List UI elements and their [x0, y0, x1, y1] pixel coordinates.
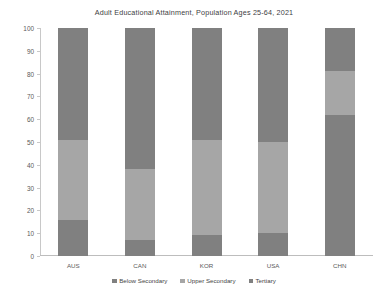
chart-legend: Below SecondaryUpper SecondaryTertiary: [0, 278, 388, 284]
y-axis-tick-label: 60: [8, 116, 34, 123]
y-axis-tick-label: 30: [8, 184, 34, 191]
legend-swatch-icon: [112, 279, 117, 284]
x-axis-tick-label: AUS: [40, 262, 107, 269]
y-axis-tick-label: 90: [8, 47, 34, 54]
y-axis-tick-label: 0: [8, 253, 34, 260]
y-axis-tick-label: 80: [8, 70, 34, 77]
legend-item[interactable]: Upper Secondary: [180, 278, 235, 284]
legend-item[interactable]: Below Secondary: [112, 278, 167, 284]
x-axis-tick-label: CHN: [306, 262, 373, 269]
legend-label: Upper Secondary: [187, 278, 235, 284]
x-axis-tick-label: CAN: [107, 262, 174, 269]
legend-label: Below Secondary: [119, 278, 167, 284]
x-axis-tick-label: KOR: [173, 262, 240, 269]
y-axis-tick-label: 70: [8, 93, 34, 100]
x-axis-tick-label: USA: [240, 262, 307, 269]
legend-label: Tertiary: [256, 278, 276, 284]
legend-swatch-icon: [249, 279, 254, 284]
y-axis-tick-label: 100: [8, 25, 34, 32]
y-axis-tick-label: 40: [8, 161, 34, 168]
y-axis-tick-label: 10: [8, 230, 34, 237]
legend-item[interactable]: Tertiary: [249, 278, 276, 284]
y-axis-tick-label: 20: [8, 207, 34, 214]
y-axis: 0102030405060708090100: [0, 28, 34, 256]
chart-title: Adult Educational Attainment, Population…: [0, 8, 388, 17]
chart-container: Adult Educational Attainment, Population…: [0, 0, 388, 292]
y-axis-tick-label: 50: [8, 139, 34, 146]
x-axis: AUSCANKORUSACHN: [40, 28, 373, 288]
legend-swatch-icon: [180, 279, 185, 284]
